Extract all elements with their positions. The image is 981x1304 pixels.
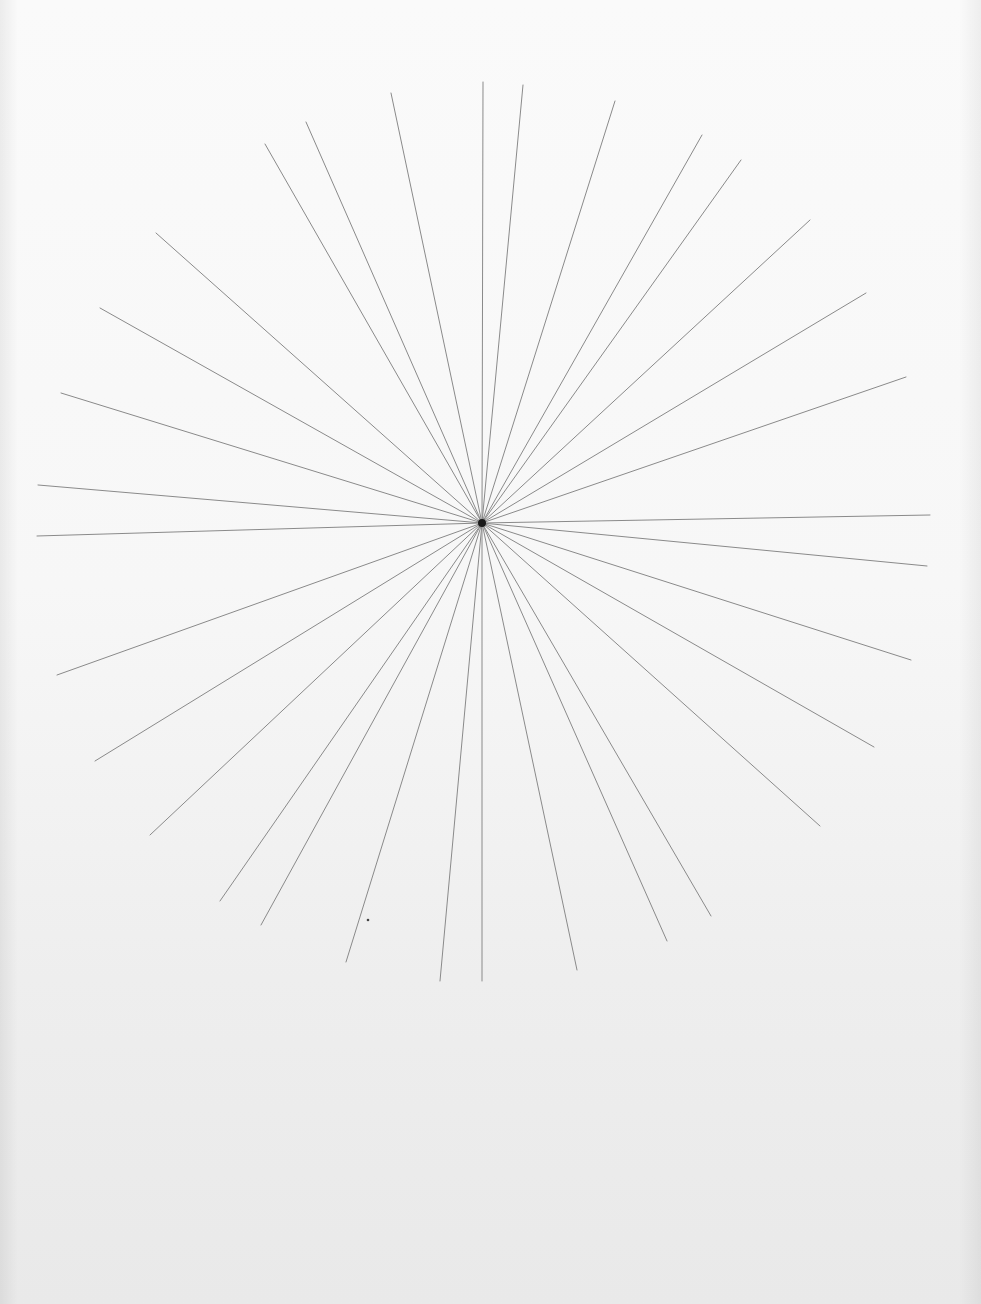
stray-marks bbox=[367, 919, 370, 922]
ray-line bbox=[482, 135, 702, 523]
ray-line bbox=[482, 523, 667, 941]
ray-line bbox=[482, 515, 930, 523]
ray-line bbox=[95, 523, 482, 761]
ray-line bbox=[482, 523, 820, 826]
ray-line bbox=[37, 523, 482, 536]
ray-line bbox=[482, 220, 810, 523]
ray-line bbox=[57, 523, 482, 675]
ray-line bbox=[38, 485, 482, 523]
ray-line bbox=[391, 93, 482, 523]
ray-line bbox=[261, 523, 482, 925]
ray-line bbox=[150, 523, 482, 835]
ray-line bbox=[100, 308, 482, 523]
ray-line bbox=[306, 122, 482, 523]
ray-line bbox=[482, 523, 577, 970]
center-point bbox=[478, 519, 486, 527]
ray-line bbox=[220, 523, 482, 901]
ray-line bbox=[482, 377, 906, 523]
stray-dot bbox=[367, 919, 370, 922]
ray-line bbox=[482, 160, 741, 523]
ray-line bbox=[482, 523, 711, 916]
starburst-drawing bbox=[0, 0, 981, 1304]
ray-line bbox=[482, 523, 874, 747]
ray-line bbox=[482, 82, 483, 523]
ray-line bbox=[156, 233, 482, 523]
radiating-lines bbox=[37, 82, 930, 981]
ray-line bbox=[482, 293, 866, 523]
